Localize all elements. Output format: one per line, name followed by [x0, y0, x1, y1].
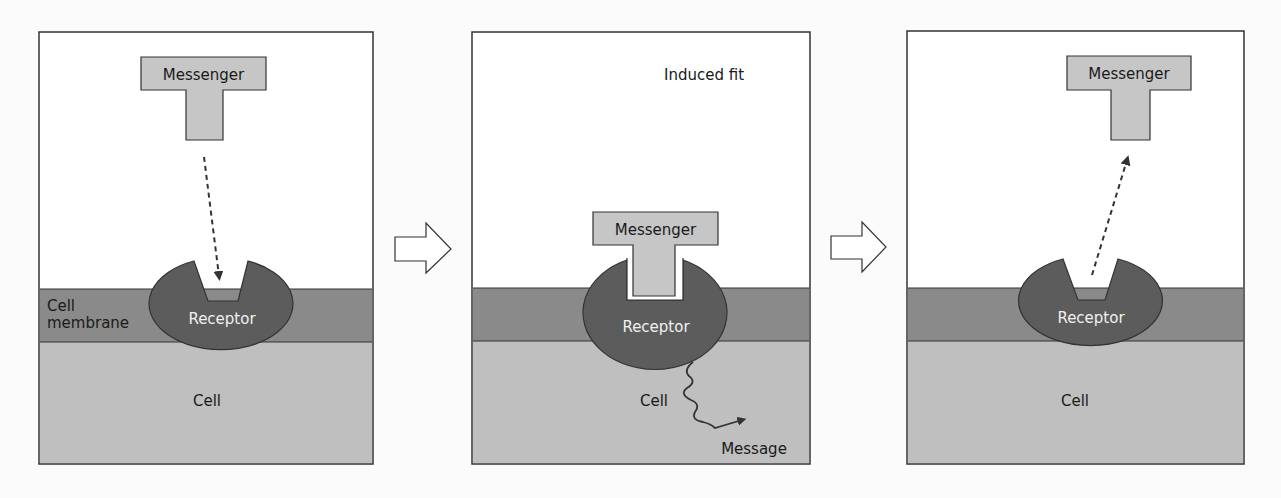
- messenger-label: Messenger: [1088, 65, 1170, 83]
- receptor-binding-diagram: Messenger Receptor Cell membrane Cell In…: [0, 0, 1281, 498]
- membrane-label-line2: membrane: [47, 314, 129, 332]
- panel-released: Messenger Receptor Cell: [907, 31, 1244, 464]
- cell-label: Cell: [1061, 392, 1089, 410]
- membrane-label-line1: Cell: [47, 297, 75, 315]
- message-label: Message: [721, 440, 787, 458]
- messenger-label: Messenger: [163, 66, 245, 84]
- receptor-label: Receptor: [1057, 309, 1125, 327]
- hollow-right-arrow-icon: [395, 223, 451, 273]
- panel-induced-fit: Induced fit Messenger Receptor Cell Mess…: [472, 32, 810, 464]
- messenger-label: Messenger: [615, 221, 697, 239]
- cell-label: Cell: [193, 392, 221, 410]
- receptor-label: Receptor: [622, 318, 690, 336]
- hollow-right-arrow-icon: [831, 222, 886, 272]
- receptor-label: Receptor: [188, 310, 256, 328]
- cell-label: Cell: [640, 392, 668, 410]
- panel-unbound: Messenger Receptor Cell membrane Cell: [39, 32, 373, 464]
- induced-fit-title: Induced fit: [664, 66, 744, 84]
